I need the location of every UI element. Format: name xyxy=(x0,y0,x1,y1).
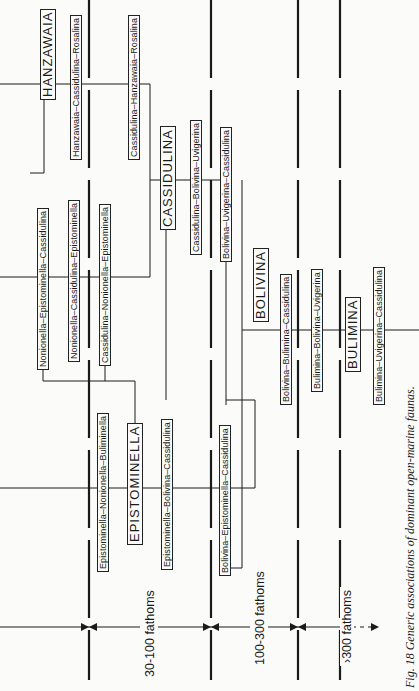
depth-label-100-300: 100-300 fathoms xyxy=(253,568,267,668)
figure-caption: Fig. 18 Generic associations of dominant… xyxy=(403,386,417,688)
association-bulimina-bolivina-uvigerina: Bulimina–Bolivina–Uvigerina xyxy=(311,269,323,392)
association-epistominella-nonionella-buliminella: Epistominella–Nonionella–Buliminella xyxy=(97,413,109,572)
association-cassidulina-nonionella-epistominella: Cassidulina–Nonionella–Epistominella xyxy=(99,204,111,366)
genus-hanzawaia: HANZAWAIA xyxy=(40,9,56,100)
figure-canvas: HANZAWAIA CASSIDULINA EPISTOMINELLA BOLI… xyxy=(0,0,419,691)
association-bolivina-bulimina-cassidulina: Bolivina–Bulimina–Cassidulina xyxy=(280,274,292,405)
association-epistominella-bolivina-cassidulina: Epistominella–Bolivina–Cassidulina xyxy=(161,419,173,570)
association-cassidulina-hanzawaia-rosalina: Cassidulina–Hanzawaia–Rosalina xyxy=(128,15,140,160)
association-bolivina-epistominella-cassidulina: Bolivina–Epistominella–Cassidulina xyxy=(219,425,231,576)
depth-label-30-100: 30-100 fathoms xyxy=(143,587,157,680)
genus-bolivina: BOLIVINA xyxy=(253,248,269,322)
depth-divider-lines xyxy=(89,0,340,680)
genus-bulimina: BULIMINA xyxy=(345,297,361,372)
association-hanzawaia-cassidulina-rosalina: Hanzawaia–Cassidulina–Rosalina xyxy=(70,15,82,160)
association-bolivina-uvigerina-cassidulina: Bolivina–Uvigerina–Cassidulina xyxy=(220,127,232,262)
genus-cassidulina: CASSIDULINA xyxy=(160,126,176,230)
association-cassidulina-bolivina-uvigerina: Cassidulina–Bolivina–Uvigerina xyxy=(190,120,202,255)
association-bulimina-uvigerina-cassidulina: Bulimina–Uvigerina–Cassidulina xyxy=(373,267,385,405)
depth-label-over-300: ›300 fathoms xyxy=(340,587,354,666)
genus-epistominella: EPISTOMINELLA xyxy=(127,423,143,545)
association-nonionella-cassidulina-epistominella: Nonionella–Cassidulina–Epistominella xyxy=(68,200,80,362)
association-nonionella-epistominella-cassidulina: Nonionella–Epistominella–Cassidulina xyxy=(37,208,49,370)
